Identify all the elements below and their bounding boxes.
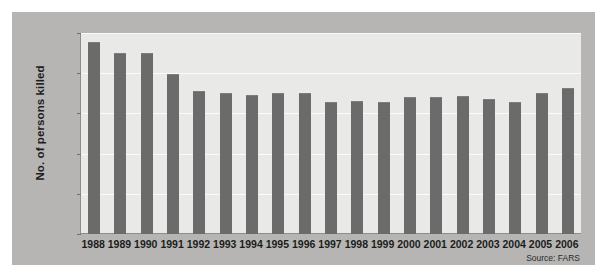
bar (246, 95, 258, 234)
y-axis-tickmark (77, 113, 81, 114)
x-axis-tick-label: 2006 (554, 238, 580, 250)
x-axis-tick-label: 1988 (80, 238, 106, 250)
bar (378, 102, 390, 234)
x-axis-tick-label: 1989 (106, 238, 132, 250)
bar (404, 97, 416, 234)
bar (193, 91, 205, 234)
bar (483, 99, 495, 234)
bar (536, 93, 548, 235)
bar (272, 93, 284, 234)
bar (88, 42, 100, 234)
bar (430, 97, 442, 234)
x-axis-tick-label: 1998 (343, 238, 369, 250)
y-axis-tickmark (77, 73, 81, 74)
x-axis-tick-label: 1991 (159, 238, 185, 250)
bar (509, 102, 521, 234)
y-axis-tickmark (77, 154, 81, 155)
y-axis-tickmark (77, 234, 81, 235)
x-axis-tick-label: 1990 (133, 238, 159, 250)
x-axis-tick-label: 1996 (291, 238, 317, 250)
x-axis-tick-label: 2004 (501, 238, 527, 250)
x-axis-tick-label: 1997 (317, 238, 343, 250)
x-axis-tick-label: 2005 (527, 238, 553, 250)
gridline (81, 73, 581, 74)
y-axis-tickmark (77, 194, 81, 195)
x-axis-tick-label: 2000 (396, 238, 422, 250)
x-axis-tick-label: 2002 (448, 238, 474, 250)
x-axis-tick-label: 1999 (369, 238, 395, 250)
bar (457, 96, 469, 234)
y-axis-tickmark (77, 33, 81, 34)
bar (299, 93, 311, 234)
bar (167, 74, 179, 234)
chart-panel: No. of persons killed 05,00010,00015,000… (12, 12, 595, 265)
bar (562, 88, 574, 234)
chart-figure: No. of persons killed 05,00010,00015,000… (0, 0, 609, 277)
bar (141, 53, 153, 234)
bar (114, 53, 126, 234)
bar (351, 101, 363, 234)
bar (325, 102, 337, 234)
x-axis-tick-label: 2001 (422, 238, 448, 250)
plot-area: 05,00010,00015,00020,00025,000 (80, 33, 581, 234)
x-axis-tick-label: 1994 (238, 238, 264, 250)
x-axis-tick-label: 1995 (264, 238, 290, 250)
source-annotation: Source: FARS (12, 253, 580, 263)
bar (220, 93, 232, 234)
x-axis-tick-label: 2003 (475, 238, 501, 250)
y-axis-title: No. of persons killed (34, 48, 46, 198)
x-axis-tick-label: 1992 (185, 238, 211, 250)
gridline (81, 33, 581, 34)
x-axis-tick-label: 1993 (212, 238, 238, 250)
